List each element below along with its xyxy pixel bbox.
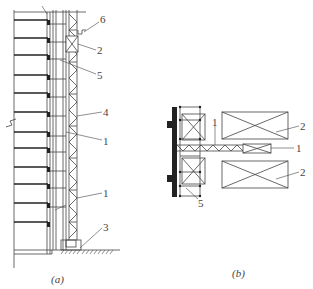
cage-rail [53,10,66,250]
lattice-arm [177,145,243,151]
label-a-3: 3 [103,222,109,233]
break-symbol [6,119,16,127]
label-a-4: 4 [103,107,109,118]
floor-slabs [14,20,48,222]
top-device [78,30,86,34]
wall-ties [50,24,66,207]
label-b-5: 5 [198,198,204,209]
diagram-canvas [0,0,313,289]
label-b-2-top: 2 [300,121,306,132]
label-b-1-mast: 1 [296,143,302,154]
label-a-6: 6 [100,14,106,25]
label-b-1-arm: 1 [212,117,218,128]
label-a-1-lower: 1 [103,188,109,199]
label-a-5: 5 [97,70,103,81]
cage-frames [180,107,205,196]
caption-b: (b) [232,267,245,279]
label-a-2: 2 [97,45,103,56]
base-foundation [61,240,81,250]
label-a-1-upper: 1 [103,136,109,147]
caption-a: (a) [51,273,64,285]
figure-b-plan [167,106,299,199]
ground-hatching [61,250,113,254]
label-b-2-bottom: 2 [300,167,306,178]
building-wall [172,107,177,197]
slab-end-blocks [47,20,50,227]
